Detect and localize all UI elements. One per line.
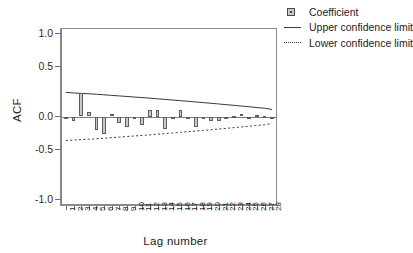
bar-lag-27: [263, 116, 267, 118]
legend-label: Lower confidence limit: [309, 37, 413, 49]
plot-area: [61, 28, 277, 205]
bar-lag-21: [217, 117, 221, 122]
legend-item-upper-confidence-limit: Upper confidence limit: [283, 21, 403, 34]
bar-lag-11: [140, 117, 144, 125]
bar-lag-4: [87, 112, 91, 116]
bar-lag-26: [255, 115, 259, 117]
legend-label: Upper confidence limit: [309, 21, 413, 33]
bar-lag-9: [125, 117, 129, 128]
x-axis-tick: [66, 206, 67, 210]
y-tick-label-5: -1.0: [5, 194, 53, 204]
bar-lag-13: [156, 110, 160, 117]
bar-lag-28: [270, 117, 274, 119]
solid-line-icon: [283, 22, 303, 33]
bar-lag-7: [110, 114, 114, 117]
bar-lag-6: [102, 117, 106, 135]
bar-lag-14: [163, 117, 167, 130]
legend: Coefficient Upper confidence limit Lower…: [283, 5, 403, 52]
dotted-line-icon: [283, 37, 303, 48]
x-axis-title: Lag number: [103, 235, 248, 247]
bar-lag-1: [64, 117, 68, 119]
legend-item-lower-confidence-limit: Lower confidence limit: [283, 36, 403, 49]
y-axis-label-group: ACF 1.0 0.5 0.0 -0.5 -1.0: [0, 0, 53, 253]
bar-lag-12: [148, 110, 152, 117]
y-tick-label-1: 1.0: [5, 28, 53, 38]
y-tick-label-3: 0.0: [5, 111, 53, 121]
legend-item-coefficient: Coefficient: [283, 5, 403, 18]
bar-lag-10: [133, 117, 137, 119]
bar-lag-16: [179, 110, 183, 117]
upper-confidence-limit-line: [66, 92, 272, 109]
bar-lag-25: [247, 117, 251, 119]
bar-lag-24: [240, 114, 244, 116]
bar-lag-17: [186, 117, 190, 119]
bar-lag-3: [79, 93, 83, 116]
y-tick-label-4: -0.5: [5, 144, 53, 154]
bar-lag-19: [202, 117, 206, 120]
bar-lag-8: [117, 117, 121, 123]
bar-swatch-icon: [283, 6, 303, 17]
x-tick-label-28: 28: [275, 202, 283, 211]
legend-label: Coefficient: [309, 6, 358, 18]
y-tick-label-2: 0.5: [5, 61, 53, 71]
bar-lag-5: [95, 117, 99, 130]
bar-lag-22: [224, 117, 228, 120]
plot-inner: [62, 29, 276, 204]
bar-lag-15: [171, 117, 175, 119]
bar-lag-20: [209, 117, 213, 122]
bar-lag-2: [72, 117, 76, 122]
bar-lag-18: [194, 117, 198, 128]
bar-lag-23: [232, 116, 236, 118]
y-axis-title: ACF: [11, 80, 23, 140]
